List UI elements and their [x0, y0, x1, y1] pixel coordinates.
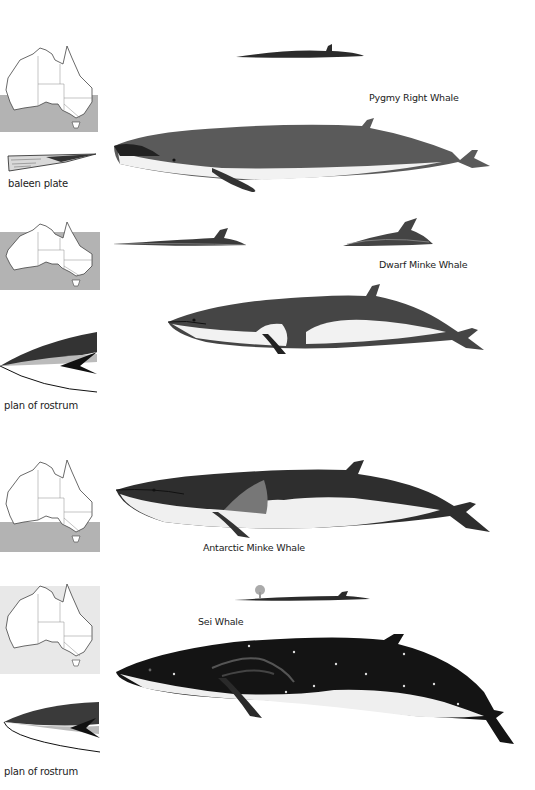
surface-profile	[236, 42, 366, 60]
rostrum-plan-icon	[0, 326, 98, 396]
dwarf-minke-whale-icon	[166, 282, 486, 356]
baleen-plate-illustration	[6, 152, 98, 174]
surface-profile-icon	[114, 228, 248, 248]
range-map	[0, 584, 100, 674]
dorsal-profile	[343, 216, 433, 248]
australia-map-icon	[0, 460, 100, 554]
pygmy-right-whale-icon	[112, 116, 492, 194]
baleen-plate-icon	[6, 152, 98, 174]
rostrum-plan-icon	[0, 700, 100, 760]
detail-label: plan of rostrum	[4, 400, 78, 411]
species-name: Sei Whale	[198, 616, 243, 627]
whale-illustration	[112, 116, 492, 194]
species-name: Dwarf Minke Whale	[379, 259, 467, 270]
dorsal-fin-profile-icon	[343, 216, 433, 248]
whale-illustration	[114, 458, 494, 540]
range-map	[0, 460, 100, 554]
australia-map-icon	[0, 38, 100, 138]
range-map	[0, 38, 100, 138]
whale-illustration	[166, 282, 486, 356]
rostrum-illustration	[0, 326, 98, 396]
detail-label: plan of rostrum	[4, 766, 78, 777]
surface-profile-icon	[236, 42, 366, 60]
australia-map-icon	[0, 220, 100, 290]
detail-label: baleen plate	[8, 178, 68, 189]
whale-illustration	[114, 632, 518, 748]
range-map	[0, 220, 100, 290]
sei-whale-icon	[114, 632, 518, 748]
antarctic-minke-whale-icon	[114, 458, 494, 540]
surface-profile	[114, 228, 248, 248]
australia-map-icon	[0, 584, 100, 674]
surface-blow-profile-icon	[234, 584, 374, 604]
rostrum-illustration	[0, 700, 100, 760]
surface-profile	[234, 584, 374, 604]
species-name: Pygmy Right Whale	[369, 92, 459, 103]
species-name: Antarctic Minke Whale	[203, 542, 305, 553]
